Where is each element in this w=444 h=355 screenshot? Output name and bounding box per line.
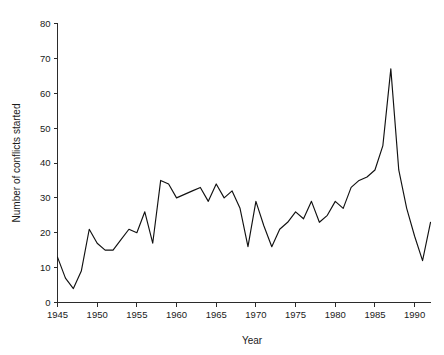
x-tick-label: 1980 [325, 309, 346, 320]
x-axis-title: Year [242, 335, 263, 346]
y-tick-label: 20 [40, 227, 51, 238]
x-tick-label: 1985 [364, 309, 385, 320]
chart-background [0, 0, 444, 355]
chart-figure: 01020304050607080 1945195019551960196519… [0, 0, 444, 355]
x-tick-label: 1960 [166, 309, 187, 320]
x-tick-label: 1990 [404, 309, 425, 320]
y-tick-label: 30 [40, 192, 51, 203]
line-chart: 01020304050607080 1945195019551960196519… [0, 0, 444, 355]
x-tick-label: 1950 [87, 309, 108, 320]
y-tick-label: 0 [45, 297, 50, 308]
x-tick-label: 1965 [206, 309, 227, 320]
y-tick-label: 50 [40, 123, 51, 134]
x-tick-label: 1970 [245, 309, 266, 320]
y-tick-label: 60 [40, 88, 51, 99]
y-tick-label: 80 [40, 18, 51, 29]
y-tick-label: 10 [40, 262, 51, 273]
y-tick-label: 40 [40, 157, 51, 168]
y-axis-tick-labels: 01020304050607080 [40, 18, 51, 308]
x-tick-label: 1945 [47, 309, 68, 320]
y-tick-label: 70 [40, 53, 51, 64]
x-tick-label: 1975 [285, 309, 306, 320]
x-tick-label: 1955 [126, 309, 147, 320]
y-axis-title: Number of conflicts started [11, 104, 22, 223]
